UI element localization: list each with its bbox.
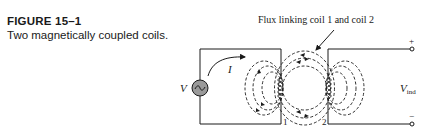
plus-terminal-label: + bbox=[409, 36, 414, 46]
primary-circuit bbox=[200, 49, 281, 124]
annotation-pointer-icon bbox=[316, 30, 334, 50]
flux-annotation: Flux linking coil 1 and coil 2 bbox=[258, 14, 374, 25]
coil-2-label: 2 bbox=[322, 117, 327, 127]
ac-source-icon bbox=[192, 80, 208, 96]
coupled-coils-diagram: V I 1 2 + − Vind bbox=[0, 0, 439, 128]
induced-voltage-label: Vind bbox=[400, 82, 416, 96]
coil-1-label: 1 bbox=[283, 117, 288, 127]
source-voltage-label: V bbox=[180, 82, 188, 94]
minus-terminal-label: − bbox=[409, 111, 414, 121]
current-arrow-icon bbox=[208, 57, 245, 76]
current-label: I bbox=[227, 63, 233, 75]
flux-lines bbox=[245, 51, 364, 125]
